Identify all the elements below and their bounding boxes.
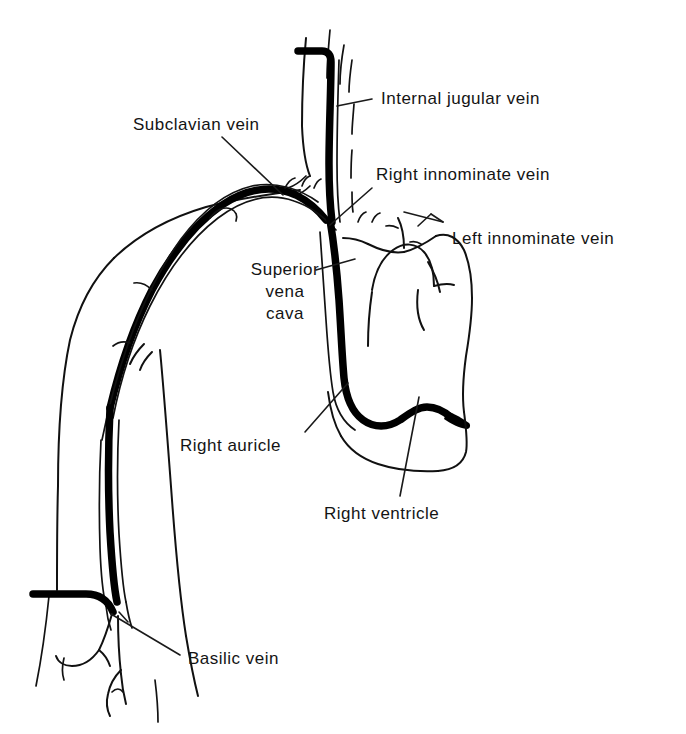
label-superior-vena-cava-line1: Superior xyxy=(225,259,345,281)
leader-right-auricle xyxy=(305,383,348,432)
label-subclavian-vein: Subclavian vein xyxy=(133,114,260,136)
label-left-innominate-vein: Left innominate vein xyxy=(452,228,614,250)
anatomy-figure: Internal jugular vein Subclavian vein Ri… xyxy=(0,0,686,734)
neck-outline xyxy=(288,30,354,212)
label-basilic-vein: Basilic vein xyxy=(188,648,279,670)
tourniquet-band xyxy=(33,594,113,612)
anatomy-line-art xyxy=(0,0,686,734)
label-right-ventricle: Right ventricle xyxy=(324,503,439,525)
label-internal-jugular-vein: Internal jugular vein xyxy=(381,88,540,110)
pulmonary-trunk xyxy=(368,262,454,346)
heart-outline xyxy=(328,235,472,471)
label-superior-vena-cava-line3: cava xyxy=(225,303,345,325)
label-right-innominate-vein: Right innominate vein xyxy=(376,164,550,186)
label-superior-vena-cava-line2: vena xyxy=(225,281,345,303)
aortic-arch xyxy=(372,218,434,290)
leader-right-innominate-vein xyxy=(330,188,372,225)
label-superior-vena-cava: Superior vena cava xyxy=(225,259,345,324)
antecubital-tributaries xyxy=(56,614,126,716)
label-right-auricle: Right auricle xyxy=(180,435,281,457)
leader-basilic-vein xyxy=(111,614,180,655)
